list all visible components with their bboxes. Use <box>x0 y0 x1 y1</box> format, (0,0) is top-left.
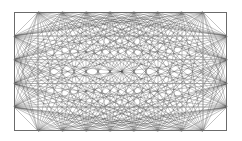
chord-star-figure <box>0 0 242 141</box>
figure-root <box>0 0 242 141</box>
